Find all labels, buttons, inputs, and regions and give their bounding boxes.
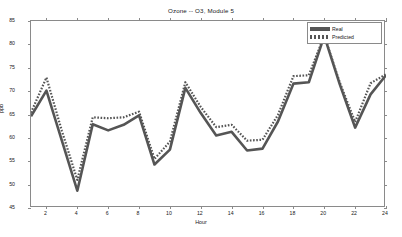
y-tick (28, 185, 31, 186)
y-tick-label: 45 (0, 204, 15, 210)
x-tick-label: 6 (106, 210, 109, 216)
x-tick (170, 206, 171, 209)
legend-swatch-dashed-icon (310, 35, 330, 39)
y-tick-right (384, 161, 387, 162)
x-axis-title: Hour (0, 219, 402, 225)
x-tick-label: 2 (44, 210, 47, 216)
x-tick (77, 206, 78, 209)
legend-item-predicted[interactable]: Predicted (310, 33, 379, 41)
y-tick-right (384, 185, 387, 186)
x-tick-top (108, 18, 109, 21)
chart-legend: Real Predicted (307, 22, 382, 44)
legend-label: Real (332, 26, 343, 32)
y-tick-right (384, 91, 387, 92)
y-tick (28, 161, 31, 162)
x-tick-label: 10 (166, 210, 172, 216)
x-tick (232, 206, 233, 209)
x-tick-top (355, 18, 356, 21)
y-tick-label: 80 (0, 40, 15, 46)
x-tick-label: 18 (290, 210, 296, 216)
x-tick (108, 206, 109, 209)
x-tick-top (170, 18, 171, 21)
legend-item-real[interactable]: Real (310, 25, 379, 33)
y-tick (28, 91, 31, 92)
y-tick-label: 85 (0, 17, 15, 23)
y-tick (28, 44, 31, 45)
y-tick-right (384, 44, 387, 45)
plot-area (30, 20, 385, 207)
x-tick (293, 206, 294, 209)
x-tick-top (293, 18, 294, 21)
y-tick-right (384, 21, 387, 22)
x-tick (263, 206, 264, 209)
x-tick-top (386, 18, 387, 21)
x-tick-label: 4 (75, 210, 78, 216)
chart-title: Ozone -- O3, Module 5 (0, 7, 402, 14)
y-tick (28, 208, 31, 209)
x-tick (46, 206, 47, 209)
y-tick (28, 68, 31, 69)
y-tick-label: 55 (0, 157, 15, 163)
x-tick-label: 12 (197, 210, 203, 216)
y-tick-label: 75 (0, 64, 15, 70)
y-tick (28, 21, 31, 22)
figure: Ozone -- O3, Module 5 ppb 45505560657075… (0, 0, 402, 237)
y-tick-label: 50 (0, 181, 15, 187)
y-tick (28, 115, 31, 116)
x-tick-top (324, 18, 325, 21)
x-tick-top (263, 18, 264, 21)
legend-label: Predicted (332, 34, 354, 40)
x-tick-top (139, 18, 140, 21)
x-tick (139, 206, 140, 209)
y-tick (28, 138, 31, 139)
x-tick (355, 206, 356, 209)
x-tick-label: 8 (137, 210, 140, 216)
plot-svg (31, 21, 386, 208)
x-tick-label: 16 (259, 210, 265, 216)
x-tick-label: 14 (228, 210, 234, 216)
x-tick-label: 24 (382, 210, 388, 216)
y-tick-label: 60 (0, 134, 15, 140)
x-tick-label: 22 (351, 210, 357, 216)
x-tick-top (46, 18, 47, 21)
y-tick-label: 65 (0, 111, 15, 117)
x-tick (386, 206, 387, 209)
x-tick-top (201, 18, 202, 21)
y-tick-label: 70 (0, 87, 15, 93)
y-tick-right (384, 115, 387, 116)
x-tick (201, 206, 202, 209)
y-tick-right (384, 138, 387, 139)
legend-swatch-solid-icon (310, 27, 330, 31)
x-tick-top (232, 18, 233, 21)
x-tick-top (77, 18, 78, 21)
y-tick-right (384, 68, 387, 69)
x-tick (324, 206, 325, 209)
x-tick-label: 20 (320, 210, 326, 216)
